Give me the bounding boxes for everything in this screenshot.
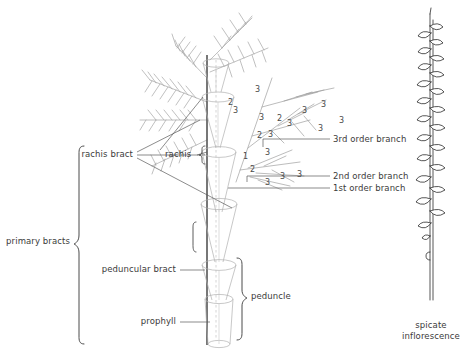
branch-order-number: 3 — [297, 170, 302, 179]
branch-order-number: 3 — [339, 116, 344, 125]
panicle-branches — [140, 13, 268, 174]
branch-order-number: 3 — [268, 130, 273, 139]
branch-order-number: 3 — [280, 172, 285, 181]
brace-upper-peduncle — [193, 222, 196, 252]
label-primary-bracts: primary bracts — [0, 236, 70, 246]
label-peduncular-bract: peduncular bract — [0, 264, 176, 274]
label-prophyll: prophyll — [0, 316, 176, 326]
label-spicate-inflorescence-line2: inflorescence — [388, 331, 471, 341]
branch-order-number: 3 — [265, 148, 270, 157]
branch-order-number: 3 — [321, 100, 326, 109]
label-2nd-order-branch: 2nd order branch — [333, 171, 408, 181]
branch-order-number: 3 — [302, 106, 307, 115]
branch-order-number: 3 — [259, 113, 264, 122]
leader-lines — [137, 97, 330, 322]
label-peduncle: peduncle — [251, 291, 291, 301]
branch-order-number: 2 — [250, 165, 255, 174]
branch-order-number: 3 — [287, 119, 292, 128]
branch-order-number: 3 — [318, 124, 323, 133]
branch-order-number: 1 — [243, 152, 248, 161]
branch-order-number: 3 — [265, 178, 270, 187]
label-rachis-bract: rachis bract — [0, 149, 133, 159]
spicate-inflorescence-drawing — [416, 8, 445, 300]
label-1st-order-branch: 1st order branch — [333, 183, 405, 193]
branch-order-number: 2 — [257, 131, 262, 140]
brace-primary-bracts — [74, 146, 84, 344]
branch-order-number: 3 — [255, 85, 260, 94]
label-rachis: rachis — [165, 149, 191, 159]
branch-order-number: 3 — [233, 106, 238, 115]
label-3rd-order-branch: 3rd order branch — [333, 134, 406, 144]
label-spicate-inflorescence-line1: spicate — [388, 320, 471, 330]
brace-peduncle — [237, 258, 247, 340]
figure-canvas: rachis bract rachis primary bracts pedun… — [0, 0, 471, 356]
branch-order-number: 2 — [277, 114, 282, 123]
